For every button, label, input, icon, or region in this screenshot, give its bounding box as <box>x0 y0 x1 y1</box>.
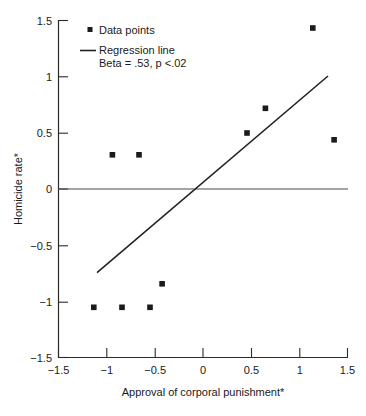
x-axis-title: Approval of corporal punishment* <box>122 386 285 398</box>
y-tick-label: 1.5 <box>37 15 52 27</box>
x-tick-label: −0.5 <box>144 364 166 376</box>
x-tick-label: 0 <box>200 364 206 376</box>
y-tick-label: 1 <box>46 71 52 83</box>
y-tick-label: 0 <box>46 183 52 195</box>
legend-marker-data-points-icon <box>88 27 93 32</box>
y-tick-label: −0.5 <box>30 240 52 252</box>
x-tick-label: 1 <box>297 364 303 376</box>
data-point <box>119 305 125 311</box>
data-point <box>110 152 116 158</box>
data-point <box>263 106 269 112</box>
y-tick-label: −1 <box>39 296 52 308</box>
chart-figure: 1.5 1 0.5 0 −0.5 −1 −1.5 −1.5 −1 −0.5 0 … <box>0 0 366 416</box>
data-point <box>310 25 316 31</box>
legend-annotation-beta: Beta = .53, p <.02 <box>99 57 186 69</box>
legend-label-data-points: Data points <box>99 24 155 36</box>
x-tick-label: 0.5 <box>244 364 259 376</box>
data-point <box>91 305 97 311</box>
y-tick-label: 0.5 <box>37 127 52 139</box>
x-tick-label: −1 <box>101 364 114 376</box>
data-point <box>244 130 250 136</box>
data-point <box>331 137 337 143</box>
y-axis-title: Homicide rate* <box>12 152 24 225</box>
scatter-plot: 1.5 1 0.5 0 −0.5 −1 −1.5 −1.5 −1 −0.5 0 … <box>0 0 366 416</box>
x-tick-label: −1.5 <box>48 364 70 376</box>
x-tick-label: 1.5 <box>340 364 355 376</box>
legend-label-regression-line: Regression line <box>99 44 175 56</box>
data-point <box>159 281 165 287</box>
data-point <box>136 152 142 158</box>
y-tick-label: −1.5 <box>30 352 52 364</box>
data-point <box>147 305 153 311</box>
